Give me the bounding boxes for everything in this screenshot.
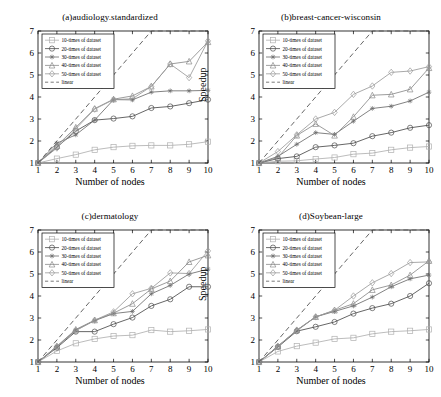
subplot-a-legend-label: 30-times of dataset bbox=[62, 54, 102, 60]
subplot-b-series bbox=[257, 90, 432, 166]
subplot-b-xtick: 4 bbox=[313, 165, 318, 175]
subplot-b-legend-label: 10-times of dataset bbox=[283, 37, 323, 43]
subplot-a-xtick: 5 bbox=[111, 165, 116, 175]
subplot-a-ytick: 1 bbox=[30, 158, 35, 168]
subplot-d-ylabel: Speedup bbox=[197, 285, 208, 301]
subplot-c: (c)dermatology Speedup Number of nodes 1… bbox=[0, 199, 220, 397]
subplot-a-series bbox=[35, 97, 210, 166]
subplot-b-xtick: 9 bbox=[408, 165, 413, 175]
subplot-d-xtick: 2 bbox=[276, 364, 281, 374]
subplot-d-ytick: 4 bbox=[251, 291, 256, 301]
subplot-c-legend-label: 50-times of dataset bbox=[62, 270, 102, 276]
subplot-c-ytick: 2 bbox=[30, 335, 35, 345]
subplot-d-plot-area: 12345678910123456710-times of dataset20-… bbox=[221, 199, 441, 397]
subplot-c-xtick: 2 bbox=[55, 364, 60, 374]
subplot-b-xtick: 3 bbox=[295, 165, 300, 175]
subplot-a-legend-label: 10-times of dataset bbox=[62, 37, 102, 43]
subplot-b-xtick: 2 bbox=[276, 165, 281, 175]
subplot-b-xtick: 6 bbox=[351, 165, 356, 175]
subplot-b-legend-label: 40-times of dataset bbox=[283, 62, 323, 68]
subplot-c-legend: 10-times of dataset20-times of dataset30… bbox=[42, 233, 114, 287]
subplot-b-xtick: 5 bbox=[332, 165, 337, 175]
subplot-d-ytick: 5 bbox=[251, 269, 256, 279]
subplot-d-xtick: 8 bbox=[389, 364, 394, 374]
subplot-c-legend-label: 30-times of dataset bbox=[62, 253, 102, 259]
subplot-c-xtick: 5 bbox=[111, 364, 116, 374]
subplot-a-legend: 10-times of dataset20-times of dataset30… bbox=[42, 34, 114, 88]
subplot-a-legend-label: 50-times of dataset bbox=[62, 71, 102, 77]
subplot-c-ytick: 6 bbox=[30, 247, 35, 257]
subplot-b-ytick: 1 bbox=[251, 158, 256, 168]
subplot-b-xtick: 8 bbox=[389, 165, 394, 175]
subplot-d-ytick: 1 bbox=[251, 357, 256, 367]
subplot-a-legend-label: 20-times of dataset bbox=[62, 46, 102, 52]
subplot-b-ytick: 3 bbox=[251, 114, 256, 124]
subplot-b-ytick: 4 bbox=[251, 92, 256, 102]
subplot-b-series bbox=[256, 123, 431, 166]
subplot-c-ytick: 1 bbox=[30, 357, 35, 367]
subplot-d-legend-label: 50-times of dataset bbox=[283, 270, 323, 276]
subplot-a-xtick: 3 bbox=[74, 165, 79, 175]
subplot-d-legend-label: 40-times of dataset bbox=[283, 261, 323, 267]
subplot-d-xtick: 10 bbox=[425, 364, 435, 374]
subplot-b-legend-label: 30-times of dataset bbox=[283, 54, 323, 60]
subplot-a-legend-label: 40-times of dataset bbox=[62, 62, 102, 68]
subplot-c-series bbox=[35, 284, 210, 364]
subplot-d-xtick: 9 bbox=[408, 364, 413, 374]
subplot-d-legend-label: 30-times of dataset bbox=[283, 253, 323, 259]
subplot-b-ytick: 2 bbox=[251, 136, 256, 146]
subplot-a: (a)audiology.standardized Speedup Number… bbox=[0, 0, 220, 198]
subplot-c-xtick: 3 bbox=[74, 364, 79, 374]
subplot-c-ytick: 7 bbox=[30, 225, 35, 235]
subplot-d-legend: 10-times of dataset20-times of dataset30… bbox=[263, 233, 335, 287]
subplot-b-ytick: 7 bbox=[251, 26, 256, 36]
subplot-d-legend-label: 10-times of dataset bbox=[283, 236, 323, 242]
subplot-c-legend-label: 20-times of dataset bbox=[62, 245, 102, 251]
subplot-b-ytick: 6 bbox=[251, 48, 256, 58]
subplot-b-legend-label: 20-times of dataset bbox=[283, 46, 323, 52]
subplot-a-xtick: 10 bbox=[204, 165, 214, 175]
subplot-a-xtick: 8 bbox=[168, 165, 173, 175]
subplot-c-xtick: 4 bbox=[92, 364, 97, 374]
subplot-b-legend-label: linear bbox=[283, 79, 295, 85]
subplot-a-xtick: 4 bbox=[92, 165, 97, 175]
subplot-a-xtick: 9 bbox=[187, 165, 192, 175]
subplot-d-xtick: 7 bbox=[370, 364, 375, 374]
subplot-d-xtick: 4 bbox=[313, 364, 318, 374]
subplot-a-plot-area: 12345678910123456710-times of dataset20-… bbox=[0, 0, 220, 198]
subplot-a-legend-label: linear bbox=[62, 79, 74, 85]
subplot-c-ytick: 3 bbox=[30, 313, 35, 323]
subplot-a-ytick: 6 bbox=[30, 48, 35, 58]
subplot-d: (d)Soybean-large Speedup Number of nodes… bbox=[221, 199, 441, 397]
subplot-a-xtick: 6 bbox=[130, 165, 135, 175]
subplot-b-xtick: 10 bbox=[425, 165, 435, 175]
subplot-c-series bbox=[35, 327, 210, 365]
subplot-a-ytick: 3 bbox=[30, 114, 35, 124]
subplot-d-series bbox=[256, 281, 431, 365]
subplot-a-xtick: 2 bbox=[55, 165, 60, 175]
subplot-a-ytick: 2 bbox=[30, 136, 35, 146]
subplot-d-xtick: 6 bbox=[351, 364, 356, 374]
subplot-b-ytick: 5 bbox=[251, 70, 256, 80]
subplot-d-xtick: 3 bbox=[295, 364, 300, 374]
subplot-b-legend-label: 50-times of dataset bbox=[283, 71, 323, 77]
subplot-c-xtick: 10 bbox=[204, 364, 214, 374]
subplot-c-ytick: 4 bbox=[30, 291, 35, 301]
subplot-a-ytick: 4 bbox=[30, 92, 35, 102]
subplot-b-legend: 10-times of dataset20-times of dataset30… bbox=[263, 34, 335, 88]
subplot-c-legend-label: 10-times of dataset bbox=[62, 236, 102, 242]
subplot-a-ytick: 5 bbox=[30, 70, 35, 80]
subplot-d-ytick: 7 bbox=[251, 225, 256, 235]
subplot-c-legend-label: linear bbox=[62, 278, 74, 284]
subplot-c-plot-area: 12345678910123456710-times of dataset20-… bbox=[0, 199, 220, 397]
subplot-b-ylabel: Speedup bbox=[197, 86, 208, 102]
subplot-c-xtick: 9 bbox=[187, 364, 192, 374]
subplot-d-ytick: 3 bbox=[251, 313, 256, 323]
subplot-c-ytick: 5 bbox=[30, 269, 35, 279]
subplot-b-xtick: 7 bbox=[370, 165, 375, 175]
subplot-b-plot-area: 12345678910123456710-times of dataset20-… bbox=[221, 0, 441, 198]
subplot-c-xtick: 8 bbox=[168, 364, 173, 374]
subplot-d-ytick: 6 bbox=[251, 247, 256, 257]
subplot-c-xtick: 6 bbox=[130, 364, 135, 374]
subplot-a-xtick: 7 bbox=[149, 165, 154, 175]
